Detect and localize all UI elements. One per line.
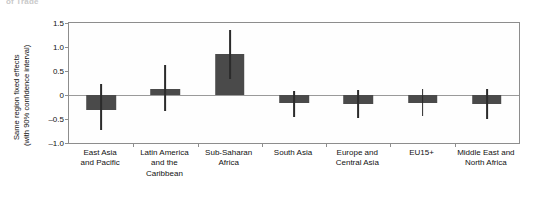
y-axis-tick-label: 0	[40, 91, 64, 100]
error-bar	[486, 89, 488, 119]
y-axis-tick-label: 0.5	[40, 67, 64, 76]
bar-group	[262, 23, 326, 143]
error-bar	[165, 65, 167, 111]
x-axis-category-label-line: North Africa	[446, 158, 526, 168]
bar-group	[455, 23, 519, 143]
x-axis-tick-mark	[262, 143, 263, 147]
y-axis-tick-mark	[65, 143, 69, 144]
y-axis-title-line1: Same region fixed effects	[12, 54, 21, 140]
y-axis-title-line2: (with 90% confidence interval)	[22, 45, 31, 146]
bar-group	[390, 23, 454, 143]
x-axis-tick-mark	[133, 143, 134, 147]
bar-group	[69, 23, 133, 143]
figure-chart: of Trade Same region fixed effects (with…	[0, 0, 539, 201]
x-axis-tick-mark	[326, 143, 327, 147]
error-bar	[422, 89, 424, 116]
plot-area	[68, 22, 520, 144]
x-axis-category-label-line: Middle East and	[446, 148, 526, 158]
bar-group	[133, 23, 197, 143]
clipped-header-text: of Trade	[6, 0, 39, 5]
x-axis-category-label: Middle East andNorth Africa	[446, 148, 526, 169]
error-bar	[293, 91, 295, 117]
x-axis-tick-mark	[390, 143, 391, 147]
x-axis-category-label-line: Central Asia	[317, 158, 397, 168]
x-axis-category-label-line: Caribbean	[125, 169, 205, 179]
error-bar	[100, 84, 102, 130]
error-bar	[229, 30, 231, 78]
y-axis-tick-label: –1.0	[40, 139, 64, 148]
y-axis-tick-label: 1.0	[40, 43, 64, 52]
error-bar	[357, 90, 359, 118]
bar-group	[198, 23, 262, 143]
bar-group	[326, 23, 390, 143]
x-axis-category-label-line: Africa	[189, 158, 269, 168]
x-axis-tick-mark	[198, 143, 199, 147]
y-axis-tick-labels: 1.51.00.50–0.5–1.0	[36, 0, 64, 201]
y-axis-tick-label: 1.5	[40, 19, 64, 28]
x-axis-category-labels: East Asiaand PacificLatin Americaand the…	[68, 148, 520, 200]
y-axis-tick-label: –0.5	[40, 115, 64, 124]
x-axis-tick-mark	[455, 143, 456, 147]
